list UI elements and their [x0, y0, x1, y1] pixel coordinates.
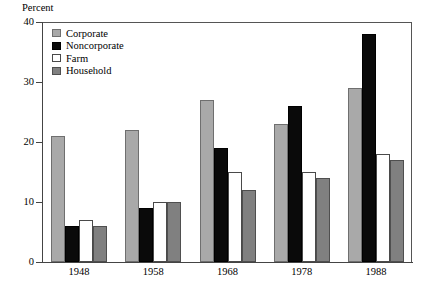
legend-swatch-icon: [52, 54, 61, 62]
bar-farm-1988: [376, 154, 390, 262]
x-axis-group-label: 1968: [190, 266, 264, 278]
bar-household-1948: [93, 226, 107, 262]
bar-noncorporate-1968: [214, 148, 228, 262]
bar-corporate-1988: [348, 88, 362, 262]
bar-household-1988: [390, 160, 404, 262]
bar-farm-1958: [153, 202, 167, 262]
y-axis-tick-label: 40: [0, 17, 34, 27]
bar-corporate-1958: [125, 130, 139, 262]
y-axis-tick-label: 30: [0, 77, 34, 87]
bar-corporate-1968: [200, 100, 214, 262]
bar-noncorporate-1978: [288, 106, 302, 262]
x-axis-group-label: 1958: [116, 266, 190, 278]
legend-item-label: Household: [66, 65, 112, 76]
y-axis-unit-label: Percent: [22, 2, 54, 13]
x-axis-group-label: 1948: [42, 266, 116, 278]
bar-noncorporate-1988: [362, 34, 376, 262]
legend-swatch-icon: [52, 29, 61, 37]
legend-item-label: Farm: [66, 53, 88, 64]
legend-item-label: Noncorporate: [66, 40, 124, 51]
y-axis-tick: [36, 262, 42, 263]
bar-household-1968: [242, 190, 256, 262]
legend-item-noncorporate: Noncorporate: [52, 40, 124, 52]
bar-corporate-1948: [51, 136, 65, 262]
bar-farm-1978: [302, 172, 316, 262]
y-axis-tick-label: 20: [0, 137, 34, 147]
y-axis-tick-label: 0: [0, 257, 34, 267]
bar-household-1958: [167, 202, 181, 262]
legend-item-label: Corporate: [66, 28, 108, 39]
legend-swatch-icon: [52, 67, 61, 75]
legend-item-household: Household: [52, 65, 124, 77]
y-axis-tick-label: 10: [0, 197, 34, 207]
bar-noncorporate-1958: [139, 208, 153, 262]
chart-legend: CorporateNoncorporateFarmHousehold: [52, 27, 124, 77]
x-axis-group-label: 1978: [265, 266, 339, 278]
legend-item-farm: Farm: [52, 52, 124, 64]
x-axis-line: [42, 262, 413, 263]
bar-farm-1948: [79, 220, 93, 262]
legend-swatch-icon: [52, 42, 61, 50]
bar-chart: Percent 010203040 19481958196819781988 C…: [0, 0, 421, 291]
legend-item-corporate: Corporate: [52, 27, 124, 39]
bar-corporate-1978: [274, 124, 288, 262]
bar-farm-1968: [228, 172, 242, 262]
x-axis-group-label: 1988: [339, 266, 413, 278]
bar-noncorporate-1948: [65, 226, 79, 262]
bar-household-1978: [316, 178, 330, 262]
